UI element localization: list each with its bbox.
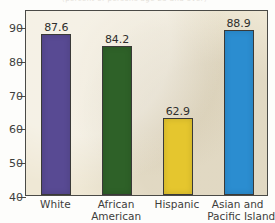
y-tick-label: 50 (9, 158, 23, 169)
x-label-line: Asian and (207, 199, 268, 211)
plot-area: 405060708090 87.684.262.988.9 (25, 10, 268, 196)
y-tick-label: 90 (9, 22, 23, 33)
x-label-line: Pacific Islander (207, 211, 268, 223)
bar: 88.9 (224, 30, 254, 195)
cropped-caption-bleed: (percent of persons age 25 and over) (62, 0, 222, 4)
y-tick-label: 70 (9, 90, 23, 101)
bar: 84.2 (102, 46, 132, 195)
bar-value-label: 87.6 (44, 22, 69, 33)
y-tick-label: 80 (9, 56, 23, 67)
bar-value-label: 88.9 (226, 18, 251, 29)
y-tick-label: 60 (9, 124, 23, 135)
bar: 62.9 (163, 118, 193, 195)
x-label-line: American (86, 211, 147, 223)
bar-chart-figure: (percent of persons age 25 and over) 405… (0, 0, 275, 223)
x-axis-category-label: Hispanic (147, 199, 208, 211)
x-label-line: White (25, 199, 86, 211)
bar: 87.6 (41, 34, 71, 195)
bar-value-label: 62.9 (166, 106, 191, 117)
x-axis-category-label: White (25, 199, 86, 211)
x-axis-category-label: AfricanAmerican (86, 199, 147, 222)
y-tick-label: 40 (9, 192, 23, 203)
bar-value-label: 84.2 (105, 34, 130, 45)
x-label-line: African (86, 199, 147, 211)
x-axis-category-label: Asian andPacific Islander (207, 199, 268, 222)
x-label-line: Hispanic (147, 199, 208, 211)
